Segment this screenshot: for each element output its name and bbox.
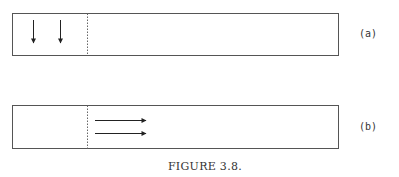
- panel-b-box: [13, 106, 339, 149]
- panel-a: (a): [13, 14, 378, 56]
- figure-caption: FIGURE 3.8.: [168, 160, 242, 173]
- panel-b: (b): [13, 106, 378, 149]
- panel-a-label: (a): [359, 28, 377, 39]
- figure-canvas: (a) (b) FIGURE 3.8.: [0, 0, 399, 177]
- panel-a-box: [13, 14, 339, 56]
- panel-b-label: (b): [359, 121, 377, 132]
